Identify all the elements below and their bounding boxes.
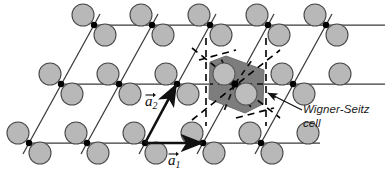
atom [130, 4, 152, 26]
lattice-node [258, 140, 264, 146]
lattice-node [149, 22, 155, 28]
atom [97, 63, 119, 85]
atom [145, 142, 167, 164]
lattice-node [323, 22, 329, 28]
vector-overarrow-icon [168, 151, 179, 157]
wigner-seitz-label-line2: cell [303, 117, 370, 131]
lattice-node [207, 22, 213, 28]
atom [123, 122, 145, 144]
vector-a1-subscript: 1 [176, 159, 181, 170]
atom [329, 63, 351, 85]
vector-a1-label: a1 [168, 152, 181, 170]
lattice-node [58, 81, 64, 87]
vector-a2-label: a2 [145, 93, 158, 111]
atom [293, 83, 315, 105]
lattice-node [91, 22, 97, 28]
lattice-node [231, 80, 238, 87]
atom [87, 142, 109, 164]
lattice-node [116, 81, 122, 87]
atom [271, 63, 293, 85]
figure-wigner-seitz-lattice: Wigner-Seitz cell a1 a2 [0, 0, 385, 180]
atom [94, 24, 116, 46]
atom [72, 4, 94, 26]
atom [119, 83, 141, 105]
atom [7, 122, 29, 144]
atom [326, 24, 348, 46]
atom [61, 83, 83, 105]
atom [188, 4, 210, 26]
atom [152, 24, 174, 46]
atom [155, 63, 177, 85]
atom [29, 142, 51, 164]
atom [213, 63, 235, 85]
atom [65, 122, 87, 144]
atom [210, 24, 232, 46]
atom [177, 83, 199, 105]
atom [239, 122, 261, 144]
atom [39, 63, 61, 85]
lattice-node [84, 140, 90, 146]
lattice-node [265, 22, 271, 28]
atom [268, 24, 290, 46]
wigner-seitz-label-line1: Wigner-Seitz [303, 103, 370, 117]
vector-a2-subscript: 2 [153, 100, 158, 111]
lattice-node [290, 81, 296, 87]
atom [246, 4, 268, 26]
lattice-node [26, 140, 32, 146]
vector-overarrow-icon [145, 92, 156, 98]
atom [235, 83, 257, 105]
atom [304, 4, 326, 26]
wigner-seitz-label: Wigner-Seitz cell [303, 103, 370, 130]
atom [261, 142, 283, 164]
lattice-diagram-svg [0, 0, 385, 180]
atom [181, 122, 203, 144]
atom [203, 142, 225, 164]
